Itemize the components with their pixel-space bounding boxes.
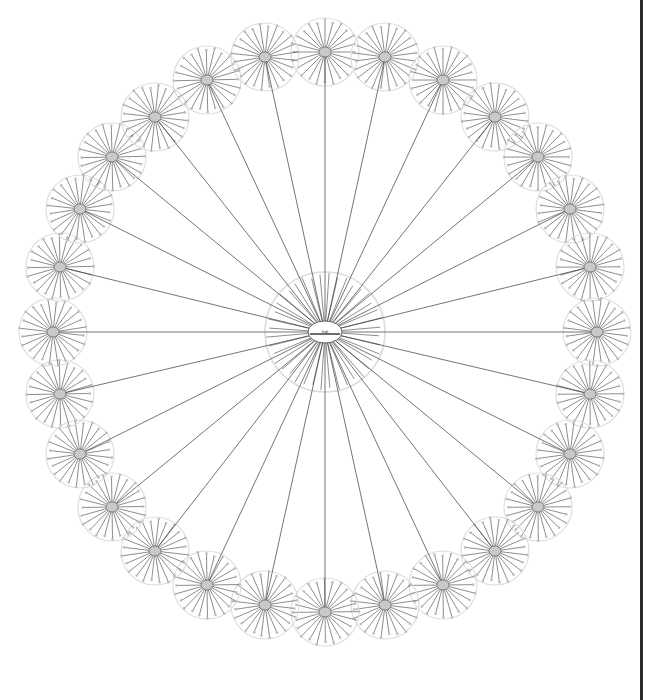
leaf-node (424, 554, 427, 557)
leaf-node (295, 599, 298, 602)
leaf-node (103, 186, 106, 189)
leaf-node (544, 227, 547, 230)
center-node-layer[interactable]: hub (308, 321, 342, 343)
hub-edge[interactable] (265, 332, 325, 605)
satellite-hub-node[interactable] (489, 112, 501, 122)
leaf-node (537, 126, 540, 129)
leaf-node (50, 220, 53, 223)
satellite-hub-node[interactable] (149, 546, 161, 556)
leaf-node (238, 69, 241, 72)
leaf-node (95, 129, 98, 132)
satellite-hub-node[interactable] (489, 546, 501, 556)
hub-edge[interactable] (207, 332, 325, 585)
satellite-hub-node[interactable] (149, 112, 161, 122)
hub-edge[interactable] (80, 332, 325, 454)
satellite-hub-node[interactable] (437, 75, 449, 85)
leaf-node (503, 156, 506, 159)
hub-edge[interactable] (155, 332, 325, 551)
hub-edge[interactable] (325, 332, 538, 507)
satellite-hub-node[interactable] (106, 152, 118, 162)
leaf-node (618, 249, 621, 252)
satellite-hub-node[interactable] (584, 262, 596, 272)
leaf-node (332, 642, 335, 645)
hub-edge[interactable] (325, 57, 385, 332)
leaf-node (184, 545, 187, 548)
leaf-node (61, 232, 64, 235)
satellite-hub-node[interactable] (532, 152, 544, 162)
leaf-node (183, 57, 186, 60)
satellite-hub-node[interactable] (379, 52, 391, 62)
hub-edge[interactable] (80, 209, 325, 332)
hub-edge[interactable] (325, 332, 385, 605)
leaf-node (233, 94, 236, 97)
hub-edge[interactable] (325, 209, 570, 332)
leaf-node (414, 607, 417, 610)
leaf-node (175, 71, 178, 74)
leaf-node (79, 319, 82, 322)
leaf-node (513, 90, 516, 93)
satellite-hub-node[interactable] (74, 449, 86, 459)
satellite-hub-node[interactable] (584, 389, 596, 399)
satellite-hub-node[interactable] (437, 580, 449, 590)
hub-edge[interactable] (325, 80, 443, 332)
leaf-node (470, 71, 473, 74)
hub-edge[interactable] (325, 332, 495, 551)
leaf-node (464, 561, 467, 564)
leaf-node (144, 514, 147, 517)
hub-edge[interactable] (325, 332, 570, 454)
leaf-node (142, 505, 145, 508)
satellite-hub-node[interactable] (47, 327, 59, 337)
leaf-node (142, 579, 145, 582)
hub-edge[interactable] (325, 332, 443, 585)
leaf-node (560, 250, 563, 253)
leaf-node (59, 295, 62, 298)
leaf-node (178, 96, 181, 99)
hub-edge[interactable] (60, 332, 325, 394)
leaf-node (276, 25, 279, 28)
network-graph[interactable]: hub (0, 0, 650, 700)
satellite-hub-node[interactable] (379, 600, 391, 610)
satellite-hub-node[interactable] (54, 262, 66, 272)
leaf-node (74, 177, 77, 180)
hub-edge[interactable] (112, 332, 325, 507)
leaf-node (573, 420, 576, 423)
satellite-hub-node[interactable] (591, 327, 603, 337)
leaf-node (141, 87, 144, 90)
satellite-hub-node[interactable] (106, 502, 118, 512)
leaf-node (235, 600, 238, 603)
satellite-hub-node[interactable] (54, 389, 66, 399)
leaf-node (567, 156, 570, 159)
satellite-hub-node[interactable] (259, 52, 271, 62)
leaf-node (589, 426, 592, 429)
leaf-node (564, 369, 567, 372)
leaf-node (442, 48, 445, 51)
satellite-hub-node[interactable] (201, 580, 213, 590)
leaf-node (355, 68, 358, 71)
leaf-node (353, 594, 356, 597)
leaf-node (565, 483, 568, 486)
leaf-node (410, 583, 413, 586)
satellite-hub-node[interactable] (564, 204, 576, 214)
leaf-node (297, 50, 300, 53)
hub-edge[interactable] (155, 117, 325, 332)
hub-edge[interactable] (207, 80, 325, 332)
hub-edge[interactable] (325, 332, 590, 394)
satellite-hub-node[interactable] (319, 47, 331, 57)
satellite-hub-node[interactable] (564, 449, 576, 459)
hub-edge[interactable] (325, 117, 495, 332)
leaf-node (621, 311, 624, 314)
satellite-hub-node[interactable] (319, 607, 331, 617)
satellite-hub-node[interactable] (74, 204, 86, 214)
leaf-node (57, 364, 60, 367)
leaf-node (138, 521, 141, 524)
satellite-hub-node[interactable] (201, 75, 213, 85)
satellite-hub-node[interactable] (532, 502, 544, 512)
leaf-node (26, 393, 29, 396)
leaf-node (132, 526, 135, 529)
hub-edge[interactable] (265, 57, 325, 332)
leaf-node (498, 581, 501, 584)
satellite-hub-node[interactable] (259, 600, 271, 610)
leaf-node (364, 630, 367, 633)
leaf-node (223, 612, 226, 615)
leaf-node (556, 423, 559, 426)
